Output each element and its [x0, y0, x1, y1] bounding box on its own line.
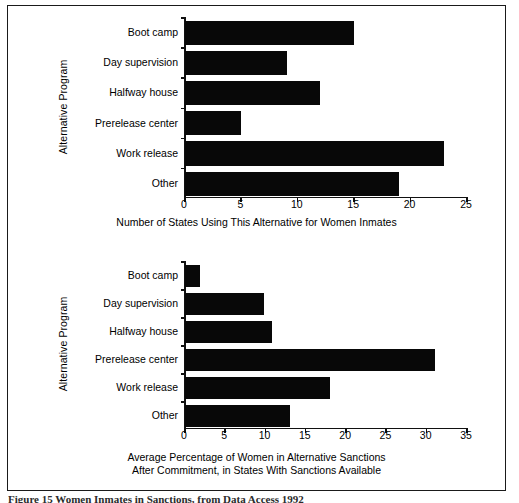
x-tick-label-top-5: 25 [460, 199, 472, 210]
chart-top-plot-area [184, 17, 466, 198]
bar-bottom-1 [185, 293, 264, 315]
bar-bottom-0 [185, 265, 200, 287]
chart-top-x-axis-title: Number of States Using This Alternative … [8, 216, 505, 229]
category-label-bottom-0: Boot camp [128, 270, 178, 281]
category-label-top-0: Boot camp [128, 27, 178, 38]
x-tick-label-bottom-4: 20 [339, 430, 351, 441]
x-tick-label-top-3: 15 [347, 199, 359, 210]
chart-top-x-axis-title-text: Number of States Using This Alternative … [116, 216, 396, 228]
category-label-bottom-3: Prerelease center [95, 354, 178, 365]
y-tick-bottom-1 [181, 289, 186, 291]
category-label-bottom-5: Other [152, 410, 178, 421]
figure-caption: Figure 15 Women Inmates in Sanctions, fr… [8, 493, 508, 503]
bar-bottom-5 [185, 405, 290, 427]
x-tick-label-top-2: 10 [291, 199, 303, 210]
bar-top-5 [185, 172, 399, 196]
y-tick-bottom-3 [181, 345, 186, 347]
y-tick-top-5 [181, 168, 186, 170]
y-tick-top-1 [181, 47, 186, 49]
chart-bottom-x-axis-title-line1: Average Percentage of Women in Alternati… [8, 451, 505, 464]
chart-top-category-labels: Boot campDay supervisionHalfway housePre… [8, 17, 178, 198]
category-label-top-1: Day supervision [103, 57, 178, 68]
category-label-bottom-4: Work release [116, 382, 178, 393]
y-tick-top-2 [181, 77, 186, 79]
chart-top-x-axis-line [184, 197, 466, 199]
x-tick-label-bottom-6: 30 [420, 430, 432, 441]
bar-top-4 [185, 141, 444, 165]
y-tick-bottom-2 [181, 317, 186, 319]
x-tick-label-bottom-7: 35 [460, 430, 472, 441]
bar-top-1 [185, 51, 287, 75]
y-tick-top-4 [181, 138, 186, 140]
bar-bottom-4 [185, 377, 330, 399]
x-tick-label-bottom-1: 5 [221, 430, 227, 441]
x-tick-label-bottom-5: 25 [380, 430, 392, 441]
chart-bottom-x-axis-title: Average Percentage of Women in Alternati… [8, 451, 505, 476]
bar-top-0 [185, 21, 354, 45]
figure-frame: Alternative Program Boot campDay supervi… [7, 5, 506, 491]
x-tick-label-bottom-2: 10 [259, 430, 271, 441]
bar-bottom-2 [185, 321, 272, 343]
x-tick-label-top-4: 20 [404, 199, 416, 210]
category-label-bottom-1: Day supervision [103, 298, 178, 309]
chart-bottom-category-labels: Boot campDay supervisionHalfway housePre… [8, 261, 178, 429]
category-label-top-4: Work release [116, 148, 178, 159]
chart-bottom-plot-area [184, 261, 466, 429]
bar-bottom-3 [185, 349, 435, 371]
x-tick-label-top-1: 5 [237, 199, 243, 210]
category-label-top-2: Halfway house [109, 87, 178, 98]
category-label-top-5: Other [152, 178, 178, 189]
y-tick-bottom-0 [181, 261, 186, 263]
x-tick-label-bottom-0: 0 [181, 430, 187, 441]
y-tick-top-3 [181, 108, 186, 110]
category-label-bottom-2: Halfway house [109, 326, 178, 337]
chart-bottom-x-axis-title-line2: After Commitment, in States With Sanctio… [8, 464, 505, 477]
bar-top-2 [185, 81, 320, 105]
y-tick-bottom-5 [181, 401, 186, 403]
y-tick-bottom-4 [181, 373, 186, 375]
bar-top-3 [185, 111, 241, 135]
category-label-top-3: Prerelease center [95, 118, 178, 129]
y-tick-top-0 [181, 17, 186, 19]
x-tick-label-top-0: 0 [181, 199, 187, 210]
x-tick-label-bottom-3: 15 [299, 430, 311, 441]
